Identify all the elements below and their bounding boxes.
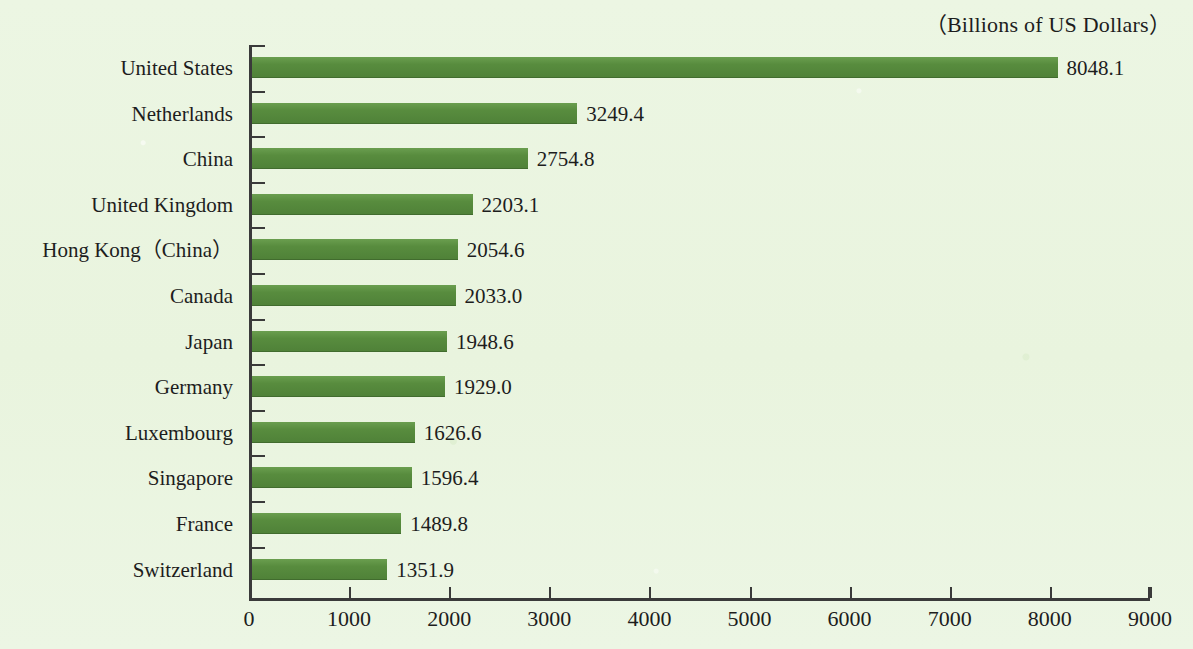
x-axis-tick-label: 3000: [527, 606, 571, 632]
y-axis-category-label: United States: [120, 58, 233, 79]
y-axis-tick: [252, 364, 265, 366]
bar: [252, 513, 401, 534]
bar: [252, 103, 577, 124]
y-axis-category-label: Japan: [185, 332, 233, 353]
bar: [252, 376, 445, 397]
y-axis-tick: [252, 45, 265, 47]
x-axis-tick: [850, 587, 852, 598]
plot-area: 8048.13249.42754.82203.12054.62033.01948…: [249, 45, 1150, 601]
x-axis-tick-label: 9000: [1128, 606, 1172, 632]
bar: [252, 285, 456, 306]
bar: [252, 239, 458, 260]
y-axis-tick: [252, 91, 265, 93]
bar-value-label: 2054.6: [467, 240, 525, 261]
chart-title: （Billions of US Dollars）: [925, 6, 1171, 38]
y-axis-tick: [252, 547, 265, 549]
x-axis-tick-label: 8000: [1028, 606, 1072, 632]
y-axis-category-label: Germany: [155, 377, 233, 398]
y-axis-tick: [252, 136, 265, 138]
bar-chart: （Billions of US Dollars） United StatesNe…: [0, 0, 1193, 649]
y-axis-category-label: France: [176, 514, 233, 535]
bar-value-label: 1489.8: [410, 514, 468, 535]
bar: [252, 467, 412, 488]
bar: [252, 148, 528, 169]
y-axis-tick: [252, 410, 265, 412]
bar: [252, 331, 447, 352]
x-axis-tick-label: 7000: [928, 606, 972, 632]
y-axis-category-label: China: [183, 149, 233, 170]
x-axis-tick-label: 1000: [327, 606, 371, 632]
y-axis-category-label: Singapore: [148, 468, 233, 489]
y-axis-category-label: Luxembourg: [125, 423, 233, 444]
bar: [252, 559, 387, 580]
x-axis-tick: [950, 587, 952, 598]
y-axis-category-label: Netherlands: [132, 104, 233, 125]
x-axis-line: [249, 598, 1150, 601]
bar: [252, 194, 473, 215]
x-axis-tick: [750, 587, 752, 598]
y-axis-category-label: Hong Kong（China）: [42, 240, 233, 261]
x-axis-tick: [1050, 587, 1052, 598]
x-axis-tick-label: 0: [244, 606, 255, 632]
bar-value-label: 1948.6: [456, 332, 514, 353]
x-axis-tick: [549, 587, 551, 598]
x-axis-tick-label: 4000: [627, 606, 671, 632]
bar: [252, 57, 1058, 78]
bar-value-label: 1929.0: [454, 377, 512, 398]
bar-value-label: 2203.1: [482, 195, 540, 216]
y-axis-tick: [252, 227, 265, 229]
x-axis-tick: [349, 587, 351, 598]
bar-value-label: 1351.9: [396, 560, 454, 581]
x-axis-tick: [649, 587, 651, 598]
y-axis-tick: [252, 501, 265, 503]
x-axis-tick: [449, 587, 451, 598]
bar-value-label: 8048.1: [1067, 58, 1125, 79]
y-axis-tick: [252, 455, 265, 457]
bar-value-label: 1626.6: [424, 423, 482, 444]
y-axis-tick: [252, 182, 265, 184]
y-axis-category-labels: United StatesNetherlandsChinaUnited King…: [0, 45, 241, 601]
bar-value-label: 2754.8: [537, 149, 595, 170]
y-axis-tick: [252, 273, 265, 275]
y-axis-category-label: Switzerland: [133, 560, 233, 581]
x-axis-tick-labels: 0100020003000400050006000700080009000: [249, 606, 1169, 646]
y-axis-category-label: United Kingdom: [91, 195, 233, 216]
x-axis-tick-label: 6000: [828, 606, 872, 632]
bar: [252, 422, 415, 443]
x-axis-tick: [1150, 587, 1152, 598]
bar-value-label: 3249.4: [586, 104, 644, 125]
y-axis-category-label: Canada: [170, 286, 233, 307]
bar-value-label: 1596.4: [421, 468, 479, 489]
x-axis-tick-label: 2000: [427, 606, 471, 632]
y-axis-tick: [252, 319, 265, 321]
bar-value-label: 2033.0: [465, 286, 523, 307]
x-axis-tick-label: 5000: [728, 606, 772, 632]
